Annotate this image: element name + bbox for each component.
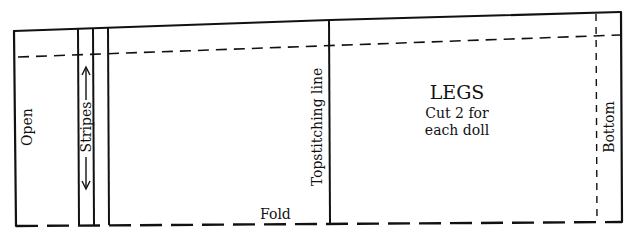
right-edge bbox=[621, 12, 622, 222]
topstitching-label: Topstitching line bbox=[309, 68, 325, 187]
stripes-arrow-up-icon bbox=[82, 67, 90, 100]
instruction-line-1: Cut 2 for bbox=[425, 105, 489, 121]
fold-label: Fold bbox=[260, 206, 291, 222]
instruction-line-2: each doll bbox=[425, 122, 490, 138]
stripes-arrow-down-icon bbox=[82, 157, 90, 189]
left-edge bbox=[14, 31, 16, 226]
piece-title: LEGS bbox=[430, 81, 485, 103]
top-edge bbox=[14, 12, 620, 31]
fold-line bbox=[16, 222, 622, 226]
stripe-line-3 bbox=[108, 28, 109, 225]
open-label: Open bbox=[19, 108, 35, 146]
legs-pattern-diagram: Open Stripes Topstitching line Bottom Fo… bbox=[0, 0, 637, 241]
topstitching-line bbox=[329, 20, 330, 224]
bottom-label: Bottom bbox=[601, 101, 617, 153]
bottom-seam-line bbox=[596, 14, 597, 222]
stripes-label: Stripes bbox=[78, 102, 94, 153]
